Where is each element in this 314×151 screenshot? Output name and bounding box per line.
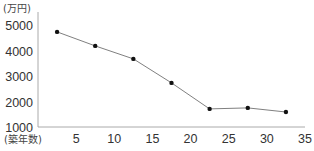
x-tick-label: 15 bbox=[145, 132, 159, 146]
data-point-marker bbox=[55, 30, 59, 34]
x-tick-label: 5 bbox=[73, 132, 80, 146]
y-axis-unit-label: (万円) bbox=[3, 3, 31, 14]
y-tick-label: 5000 bbox=[5, 19, 33, 33]
x-tick-label: 10 bbox=[107, 132, 121, 146]
axes: 100020003000400050005101520253035 bbox=[5, 12, 312, 146]
data-point-marker bbox=[246, 106, 250, 110]
x-tick-label: 35 bbox=[298, 132, 312, 146]
x-tick-label: 25 bbox=[222, 132, 236, 146]
data-point-marker bbox=[207, 107, 211, 111]
series-line bbox=[57, 32, 286, 112]
x-tick-label: 30 bbox=[260, 132, 274, 146]
x-axis-unit-label: (築年数) bbox=[4, 133, 42, 145]
x-tick-label: 20 bbox=[184, 132, 198, 146]
data-point-marker bbox=[93, 44, 97, 48]
y-tick-label: 1000 bbox=[5, 121, 33, 135]
line-chart: 100020003000400050005101520253035 (万円) (… bbox=[0, 0, 314, 151]
data-point-marker bbox=[169, 81, 173, 85]
data-point-marker bbox=[284, 110, 288, 114]
y-tick-label: 3000 bbox=[5, 70, 33, 84]
data-point-marker bbox=[131, 57, 135, 61]
plot-area bbox=[55, 30, 288, 114]
y-tick-label: 4000 bbox=[5, 45, 33, 59]
y-tick-label: 2000 bbox=[5, 96, 33, 110]
